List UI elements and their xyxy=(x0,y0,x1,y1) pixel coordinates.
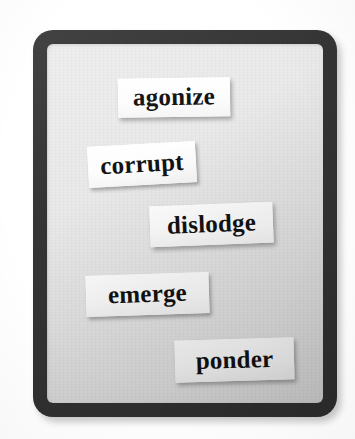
scene-stage: agonize corrupt dislodge emerge ponder xyxy=(0,0,355,439)
word-slip-ponder[interactable]: ponder xyxy=(174,337,294,382)
word-slip-label: agonize xyxy=(133,83,215,111)
word-slip-corrupt[interactable]: corrupt xyxy=(87,141,197,188)
word-slip-label: dislodge xyxy=(166,209,256,239)
word-slip-label: corrupt xyxy=(100,149,185,181)
word-slip-agonize[interactable]: agonize xyxy=(118,77,231,118)
board-panel: agonize corrupt dislodge emerge ponder xyxy=(47,44,323,403)
word-slip-label: emerge xyxy=(108,280,188,309)
word-slip-dislodge[interactable]: dislodge xyxy=(149,202,273,248)
board-frame: agonize corrupt dislodge emerge ponder xyxy=(33,30,337,417)
word-slip-label: ponder xyxy=(195,345,273,374)
word-slip-emerge[interactable]: emerge xyxy=(85,272,209,317)
